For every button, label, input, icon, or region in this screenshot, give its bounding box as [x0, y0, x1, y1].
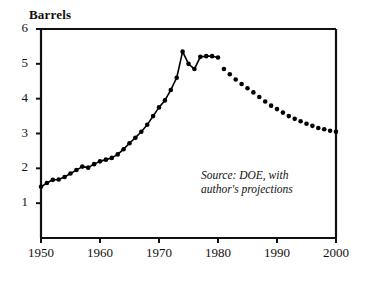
data-point-marker	[316, 126, 321, 131]
y-tick-label: 2	[10, 159, 28, 175]
y-tick-label: 3	[10, 125, 28, 141]
data-point-marker	[92, 162, 97, 167]
data-point-marker	[174, 75, 179, 80]
data-point-marker	[216, 55, 221, 60]
x-tick-label: 1980	[195, 245, 241, 261]
data-point-marker	[228, 72, 233, 77]
data-point-marker	[39, 185, 44, 190]
data-point-marker	[233, 77, 238, 82]
data-point-marker	[121, 147, 126, 152]
data-point-marker	[74, 168, 79, 173]
data-point-marker	[222, 67, 227, 72]
data-point-marker	[133, 135, 138, 140]
y-tick-label: 6	[10, 20, 28, 36]
data-point-marker	[80, 164, 85, 169]
data-point-marker	[192, 67, 197, 72]
data-point-marker	[304, 121, 309, 126]
data-point-marker	[257, 95, 262, 100]
x-tick-label: 1990	[254, 245, 300, 261]
data-point-marker	[275, 107, 280, 112]
data-point-marker	[157, 105, 162, 110]
data-point-marker	[198, 55, 203, 60]
data-series-layer	[39, 49, 339, 189]
data-point-marker	[186, 62, 191, 67]
data-point-marker	[169, 88, 174, 93]
data-point-marker	[298, 119, 303, 124]
data-point-marker	[68, 171, 73, 176]
data-point-marker	[86, 165, 91, 170]
data-point-marker	[139, 129, 144, 134]
y-tick-label: 4	[10, 90, 28, 106]
x-tick-label: 1960	[77, 245, 123, 261]
data-point-marker	[180, 49, 185, 54]
data-point-marker	[45, 181, 50, 186]
data-point-marker	[322, 127, 327, 132]
data-point-marker	[51, 178, 56, 183]
chart-svg	[0, 0, 367, 282]
data-point-marker	[287, 114, 292, 119]
data-point-marker	[110, 156, 115, 161]
data-point-marker	[104, 157, 109, 162]
data-point-marker	[269, 103, 274, 108]
data-point-marker	[310, 124, 315, 129]
data-point-marker	[151, 114, 156, 119]
data-point-marker	[328, 128, 333, 133]
data-point-marker	[115, 152, 120, 157]
data-point-marker	[245, 86, 250, 91]
x-tick-label: 1970	[136, 245, 182, 261]
series-line-historical	[41, 52, 218, 187]
data-point-marker	[263, 99, 268, 104]
y-tick-label: 5	[10, 55, 28, 71]
tick-mark-layer	[36, 29, 336, 243]
data-point-marker	[334, 129, 339, 134]
data-point-marker	[210, 54, 215, 59]
data-point-marker	[239, 82, 244, 87]
data-point-marker	[163, 98, 168, 103]
data-point-marker	[145, 122, 150, 127]
axis-layer	[41, 29, 336, 238]
data-point-marker	[292, 117, 297, 122]
data-point-marker	[281, 110, 286, 115]
chart-container: Barrels Source: DOE, with author's proje…	[0, 0, 367, 282]
x-tick-label: 1950	[18, 245, 64, 261]
data-point-marker	[62, 175, 67, 180]
data-point-marker	[98, 159, 103, 164]
data-point-marker	[251, 90, 256, 95]
data-point-marker	[127, 141, 132, 146]
data-point-marker	[204, 54, 209, 59]
data-point-marker	[56, 177, 61, 182]
y-tick-label: 1	[10, 194, 28, 210]
x-tick-label: 2000	[313, 245, 359, 261]
